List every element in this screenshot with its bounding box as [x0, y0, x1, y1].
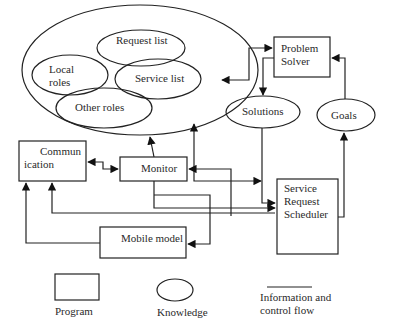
request-list-label: Request list: [116, 34, 168, 47]
legend-flow-label: Information and control flow: [260, 291, 331, 317]
edge-monitor-kb: [150, 137, 154, 157]
communication-line-1: Commun: [24, 145, 81, 158]
legend-program-label: Program: [55, 305, 93, 318]
local-roles-label: Local roles: [49, 63, 74, 89]
scheduler-line-3: Scheduler: [284, 208, 328, 221]
edge-communication-monitor: [88, 162, 118, 169]
legend-knowledge-label: Knowledge: [157, 306, 208, 319]
legend-program-swatch: [55, 274, 99, 300]
mobile-model-label: Mobile model: [121, 232, 183, 245]
edge-scheduler-goals: [338, 133, 344, 217]
local-roles-line-2: roles: [49, 76, 74, 89]
edge-goals-problemsolver: [332, 58, 345, 99]
communication-label: Commun ication: [24, 145, 81, 171]
problem-solver-line-2: Solver: [281, 55, 318, 68]
solutions-label: Solutions: [242, 105, 284, 118]
legend-flow-line-2: control flow: [260, 304, 331, 317]
problem-solver-line-1: Problem: [281, 42, 318, 55]
service-list-label: Service list: [135, 72, 184, 85]
problem-solver-label: Problem Solver: [281, 42, 318, 68]
local-roles-line-1: Local: [49, 63, 74, 76]
other-roles-label: Other roles: [75, 101, 124, 114]
goals-label: Goals: [331, 109, 357, 122]
communication-line-2: ication: [24, 158, 81, 171]
edge-kb-scheduler: [194, 180, 261, 181]
edge-solutions-scheduler: [262, 128, 275, 203]
scheduler-line-2: Request: [284, 195, 328, 208]
edge-problemsolver-solutions: [263, 58, 274, 95]
legend-knowledge-swatch: [157, 279, 193, 301]
monitor-label: Monitor: [141, 162, 177, 175]
scheduler-line-1: Service: [284, 182, 328, 195]
scheduler-label: Service Request Scheduler: [284, 182, 328, 221]
legend-flow-line-1: Information and: [260, 291, 331, 304]
edge-kb-problemsolver: [222, 48, 272, 80]
